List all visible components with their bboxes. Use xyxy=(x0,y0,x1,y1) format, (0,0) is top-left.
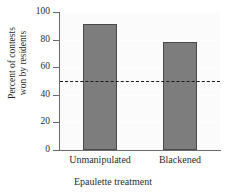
gridline-100 xyxy=(60,12,220,13)
x-axis-title: Epaulette treatment xyxy=(0,176,226,188)
y-tick-label-40: 40 xyxy=(20,90,50,100)
x-axis-line xyxy=(59,150,221,151)
bar-chart-figure: Percent of contests won by residents 020… xyxy=(0,0,226,196)
x-label-blackened: Blackened xyxy=(120,154,226,166)
y-tick-label-80: 80 xyxy=(20,35,50,45)
y-tick-label-100: 100 xyxy=(20,7,50,17)
bar-unmanipulated xyxy=(83,24,117,150)
y-tick-label-20: 20 xyxy=(20,117,50,127)
y-axis-title-line-1: Percent of contests xyxy=(7,27,18,99)
bar-blackened xyxy=(163,42,197,150)
plot-area xyxy=(60,12,220,150)
y-axis-line xyxy=(59,12,60,151)
y-tick-label-60: 60 xyxy=(20,62,50,72)
chance-reference-line xyxy=(60,81,220,82)
